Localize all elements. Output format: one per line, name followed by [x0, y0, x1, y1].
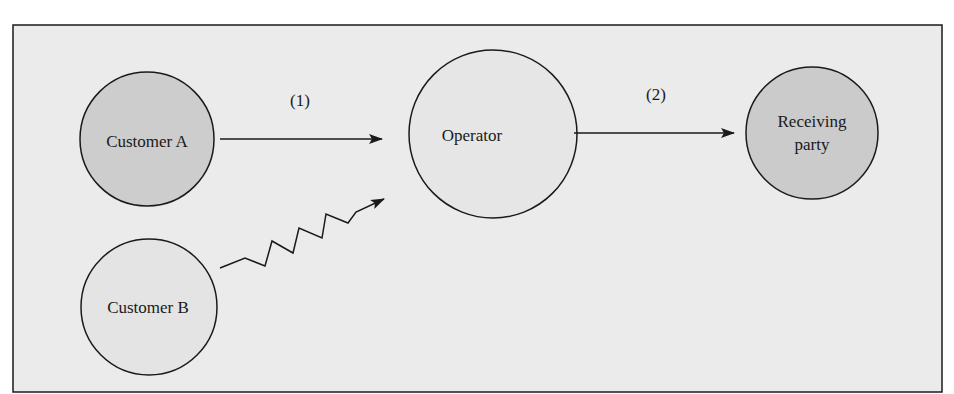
step1-label: (1)	[290, 91, 310, 110]
node-customer-a: Customer A	[80, 72, 214, 206]
receiving-party-circle	[746, 67, 878, 199]
operator-label: Operator	[442, 126, 503, 145]
diagram-canvas: Customer A Customer B Operator Receiving…	[0, 0, 954, 394]
step2-label: (2)	[646, 85, 666, 104]
customer-b-label: Customer B	[107, 298, 189, 317]
node-operator: Operator	[409, 50, 577, 218]
node-receiving-party: Receiving party	[746, 67, 878, 199]
receiving-party-label-line1: Receiving	[778, 112, 847, 131]
receiving-party-label-line2: party	[795, 135, 830, 154]
customer-a-label: Customer A	[106, 132, 188, 151]
node-customer-b: Customer B	[81, 239, 217, 375]
